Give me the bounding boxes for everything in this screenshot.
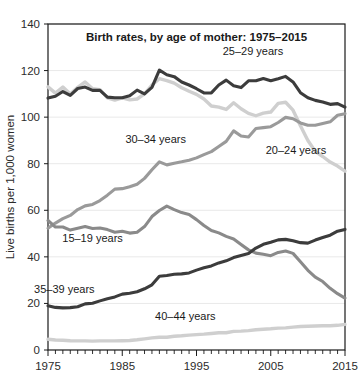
y-tick-label: 60 <box>27 204 40 216</box>
series-label-35-39: 35–39 years <box>34 283 95 295</box>
x-tick-label: 1985 <box>109 360 135 372</box>
series-label-40-44: 40–44 years <box>155 310 216 322</box>
chart-title: Birth rates, by age of mother: 1975–2015 <box>86 31 308 43</box>
series-label-15-19: 15–19 years <box>62 232 123 244</box>
series-line-30-34 <box>48 114 345 229</box>
y-tick-label: 140 <box>21 18 40 30</box>
birth-rates-line-chart: 0204060801001201401975198519952005201525… <box>0 0 358 392</box>
series-line-40-44 <box>48 324 345 341</box>
y-tick-label: 0 <box>34 344 40 356</box>
plot-frame <box>48 24 345 350</box>
y-tick-label: 80 <box>27 158 40 170</box>
x-tick-label: 2015 <box>332 360 358 372</box>
x-tick-label: 1975 <box>35 360 61 372</box>
series-label-20-24: 20–24 years <box>266 144 327 156</box>
chart-canvas: 0204060801001201401975198519952005201525… <box>0 0 358 392</box>
y-tick-label: 40 <box>27 251 40 263</box>
series-label-30-34: 30–34 years <box>125 133 186 145</box>
x-tick-label: 2005 <box>258 360 284 372</box>
y-axis-title: Live births per 1,000 women <box>4 115 16 259</box>
y-tick-label: 120 <box>21 65 40 77</box>
y-tick-label: 100 <box>21 111 40 123</box>
x-tick-label: 1995 <box>184 360 210 372</box>
y-tick-label: 20 <box>27 297 40 309</box>
series-label-25-29: 25–29 years <box>223 45 284 57</box>
